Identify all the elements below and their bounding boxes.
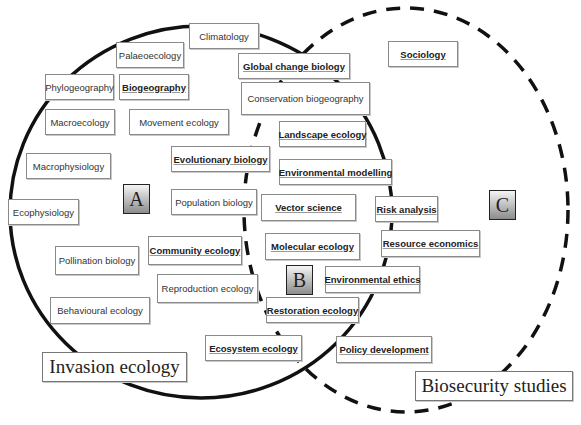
topic-phylogeography: Phylogeography — [45, 74, 114, 100]
topic-reproduction-ecology: Reproduction ecology — [157, 274, 258, 303]
topic-molecular-ecology: Molecular ecology — [265, 233, 360, 260]
region-marker-a: A — [123, 184, 150, 214]
topic-global-change-biology: Global change biology — [238, 53, 350, 79]
invasion-ecology-label: Invasion ecology — [42, 352, 187, 382]
topic-climatology: Climatology — [189, 23, 259, 49]
topic-resource-economics: Resource economics — [381, 230, 480, 257]
topic-movement-ecology: Movement ecology — [129, 109, 229, 135]
topic-macrophysiology: Macrophysiology — [26, 153, 111, 179]
topic-evolutionary-biology: Evolutionary biology — [171, 146, 270, 172]
topic-environmental-modelling: Environmental modelling — [279, 159, 392, 185]
topic-biogeography: Biogeography — [119, 74, 189, 100]
topic-ecophysiology: Ecophysiology — [8, 199, 79, 225]
topic-vector-science: Vector science — [261, 194, 356, 221]
topic-landscape-ecology: Landscape ecology — [279, 121, 366, 147]
topic-environmental-ethics: Environmental ethics — [325, 266, 420, 293]
topic-palaeoecology: Palaeoecology — [116, 42, 184, 68]
topic-restoration-ecology: Restoration ecology — [266, 297, 359, 323]
topic-risk-analysis: Risk analysis — [375, 196, 438, 222]
region-marker-c: C — [489, 190, 516, 220]
topic-conservation-biogeography: Conservation biogeography — [241, 82, 370, 115]
topic-pollination-biology: Pollination biology — [55, 246, 139, 275]
topic-policy-development: Policy development — [336, 336, 432, 363]
biosecurity-studies-label: Biosecurity studies — [415, 371, 573, 401]
topic-sociology: Sociology — [388, 41, 458, 67]
topic-behavioural-ecology: Behavioural ecology — [50, 297, 150, 324]
topic-macroecology: Macroecology — [45, 109, 115, 135]
region-marker-b: B — [286, 265, 313, 295]
topic-community-ecology: Community ecology — [148, 236, 242, 265]
topic-ecosystem-ecology: Ecosystem ecology — [205, 335, 302, 361]
topic-population-biology: Population biology — [171, 189, 257, 215]
